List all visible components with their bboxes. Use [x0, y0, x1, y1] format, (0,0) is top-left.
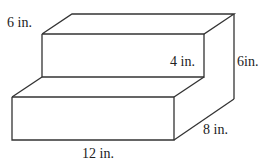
stepped-solid-diagram: 6 in. 4 in. 6in. 8 in. 12 in.: [0, 0, 267, 163]
step-right-diagonal: [174, 77, 204, 97]
label-depth: 8 in.: [203, 123, 228, 137]
step-left-diagonal: [12, 77, 42, 97]
label-step-height: 4 in.: [170, 55, 195, 69]
label-top-depth: 6 in.: [7, 16, 32, 30]
upper-top-face: [42, 14, 234, 34]
label-total-height: 6in.: [237, 55, 258, 69]
label-length: 12 in.: [82, 147, 114, 161]
lower-front-face: [12, 97, 174, 140]
solid-drawing: [0, 0, 267, 163]
